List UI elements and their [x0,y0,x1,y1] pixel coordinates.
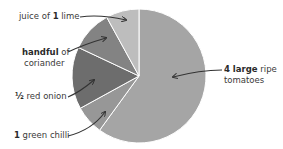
label-tomatoes: 4 large ripe tomatoes [224,64,277,86]
label-onion-bold: ½ [15,91,24,101]
label-coriander-rest: of [59,47,70,57]
label-coriander-line2: coriander [22,58,64,68]
label-tomatoes-rest: ripe [258,64,277,74]
label-lime-pre: juice of [19,11,53,21]
label-lime-rest: lime [59,11,80,21]
label-lime: juice of 1 lime [19,11,79,22]
label-onion: ½ red onion [15,91,67,102]
label-tomatoes-bold: 4 large [224,64,258,74]
label-chilli: 1 green chilli [14,130,69,141]
label-tomatoes-line2: tomatoes [224,75,264,85]
label-onion-rest: red onion [24,91,67,101]
label-chilli-rest: green chilli [20,130,69,140]
label-coriander: handful of coriander [22,47,70,69]
pie-slices [72,9,206,143]
label-coriander-bold: handful [22,47,59,57]
